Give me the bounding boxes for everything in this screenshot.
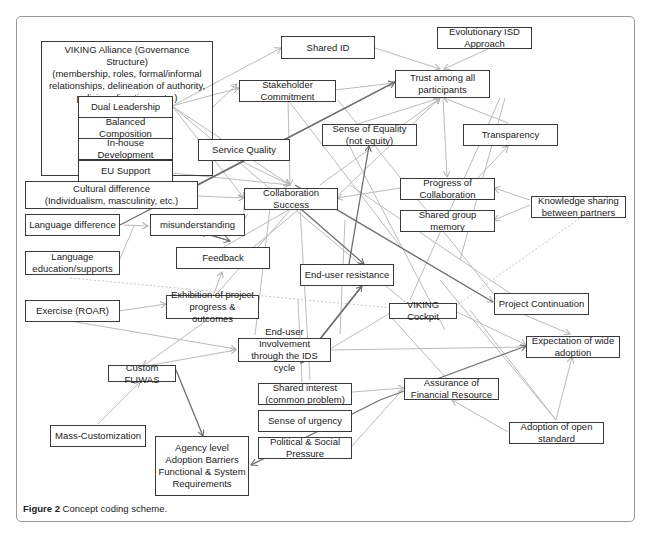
node-exhibition: Exhibition of project progress & outcome… <box>166 295 259 319</box>
node-eu-support: EU Support <box>78 160 173 182</box>
node-exercise-roar: Exercise (ROAR) <box>25 300 120 322</box>
node-language-education: Language education/supports <box>25 251 120 275</box>
figure-caption-label: Figure 2 <box>23 503 60 514</box>
node-assurance-financial: Assurance of Financial Resource <box>404 378 499 400</box>
node-dual-leadership: Dual Leadership <box>78 96 173 118</box>
node-trust: Trust among all participants <box>395 70 490 98</box>
node-language-difference: Language difference <box>25 214 120 236</box>
node-end-user-involvement: End-user Involvement through the IDS cyc… <box>238 338 331 362</box>
node-inhouse-development: In-house Development <box>78 138 173 160</box>
node-shared-group-memory: Shared group memory <box>400 210 495 232</box>
figure-caption-text: Concept coding scheme. <box>63 503 168 514</box>
node-project-continuation: Project Continuation <box>494 293 589 315</box>
node-service-quality: Service Quality <box>198 139 290 161</box>
node-political-social: Political & Social Pressure <box>258 437 352 459</box>
node-expectation-wide-adoption: Expectation of wide adoption <box>526 336 620 358</box>
node-adoption-open-standard: Adoption of open standard <box>509 422 604 444</box>
node-end-user-resistance: End-user resistance <box>300 264 394 286</box>
node-misunderstanding: misunderstanding <box>150 214 245 236</box>
node-custom-fliwas: Custom FLIWAS <box>108 365 176 382</box>
node-feedback: Feedback <box>176 247 270 269</box>
node-shared-id: Shared ID <box>281 36 375 59</box>
node-sense-of-equality: Sense of Equality (not equity) <box>322 124 417 146</box>
node-balanced-composition: Balanced Composition <box>78 117 173 139</box>
node-viking-cockpit: VIKING Cockpit <box>389 303 457 319</box>
node-cultural-difference: Cultural difference (Individualism, masc… <box>25 181 198 209</box>
node-agency-level: Agency level Adoption Barriers Functiona… <box>155 436 249 496</box>
node-progress-collaboration: Progress of Collaboration <box>400 178 495 200</box>
node-transparency: Transparency <box>463 124 558 146</box>
node-shared-interest: Shared interest (common problem) <box>258 383 352 405</box>
node-knowledge-sharing: Knowledge sharing between partners <box>531 196 626 218</box>
node-sense-of-urgency: Sense of urgency <box>258 410 352 432</box>
node-evolutionary-isd: Evolutionary ISD Approach <box>437 27 532 49</box>
node-collaboration-success: Collaboration Success <box>244 188 338 210</box>
node-stakeholder-commitment: Stakeholder Commitment <box>239 80 336 102</box>
node-mass-customization: Mass-Customization <box>50 425 146 447</box>
figure-caption: Figure 2 Concept coding scheme. <box>23 503 167 514</box>
